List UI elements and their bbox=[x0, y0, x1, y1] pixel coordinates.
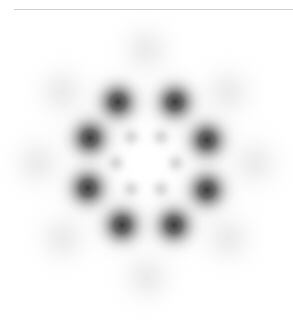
hexagonal-blob-pattern bbox=[0, 0, 293, 325]
image-stage bbox=[0, 0, 293, 325]
